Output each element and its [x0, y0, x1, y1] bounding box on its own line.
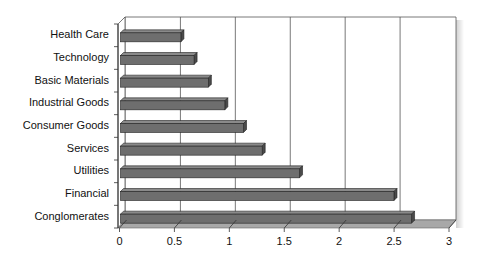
wall-shadow	[456, 20, 464, 228]
x-tick-label: 2.5	[386, 235, 401, 247]
bar-chart: Health CareTechnologyBasic MaterialsIndu…	[0, 0, 485, 259]
y-axis-ticks: Health CareTechnologyBasic MaterialsIndu…	[23, 24, 118, 228]
category-label: Consumer Goods	[23, 119, 110, 131]
category-label: Health Care	[50, 28, 109, 40]
bar	[121, 75, 212, 87]
category-label: Utilities	[74, 164, 110, 176]
bar	[121, 166, 303, 178]
x-tick-label: 2	[336, 235, 342, 247]
bar	[121, 98, 228, 110]
category-label: Services	[67, 142, 110, 154]
bar	[121, 30, 184, 42]
category-label: Financial	[65, 187, 109, 199]
x-tick-label: 3	[446, 235, 452, 247]
x-tick-label: 0	[116, 235, 122, 247]
category-label: Technology	[53, 51, 109, 63]
category-label: Industrial Goods	[29, 96, 110, 108]
x-tick-label: 0.5	[167, 235, 182, 247]
bar	[121, 121, 247, 133]
x-tick-label: 1.5	[277, 235, 292, 247]
bar	[121, 211, 415, 223]
bar	[121, 189, 397, 201]
category-label: Basic Materials	[34, 74, 109, 86]
x-tick-label: 1	[226, 235, 232, 247]
bar	[121, 53, 198, 65]
bar	[121, 143, 266, 155]
category-label: Conglomerates	[34, 210, 109, 222]
